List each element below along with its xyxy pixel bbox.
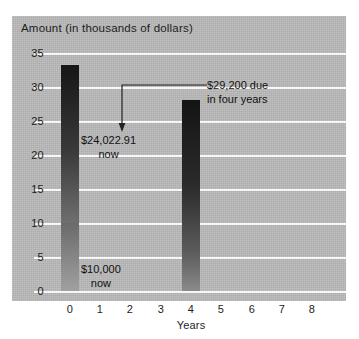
x-axis-ticks: 0 1 2 3 4 5 6 7 8 <box>12 303 346 319</box>
ytick-label-20: 20 <box>18 149 44 161</box>
annotation-29200: $29,200 due in four years <box>207 79 268 106</box>
bar-chart: Amount (in thousands of dollars) 35 30 2… <box>0 0 359 339</box>
annotation-24022-line2: now <box>81 148 136 162</box>
chart-axis-title: Amount (in thousands of dollars) <box>21 22 193 34</box>
ytick-label-15: 15 <box>18 183 44 195</box>
annotation-24022: $24,022.91 now <box>81 134 136 161</box>
annotation-29200-line1: $29,200 due <box>207 79 268 91</box>
ytick-label-0: 0 <box>18 285 44 297</box>
annotation-29200-line2: in four years <box>207 93 268 107</box>
xtick-label-8: 8 <box>309 303 315 315</box>
xtick-label-3: 3 <box>158 303 164 315</box>
ytick-label-35: 35 <box>18 47 44 59</box>
annotation-24022-line1: $24,022.91 <box>81 134 136 146</box>
x-axis-title: Years <box>177 319 206 331</box>
ytick-label-5: 5 <box>18 251 44 263</box>
annotation-10000-line1: $10,000 <box>81 263 121 275</box>
xtick-label-4: 4 <box>188 303 194 315</box>
xtick-label-7: 7 <box>279 303 285 315</box>
annotation-10000-line2: now <box>81 277 121 291</box>
xtick-label-1: 1 <box>97 303 103 315</box>
y-axis-ticks: 35 30 25 20 15 10 5 0 <box>12 16 346 301</box>
xtick-label-5: 5 <box>218 303 224 315</box>
xtick-label-2: 2 <box>127 303 133 315</box>
ytick-label-25: 25 <box>18 115 44 127</box>
annotation-10000: $10,000 now <box>81 263 121 290</box>
xtick-label-6: 6 <box>249 303 255 315</box>
ytick-label-30: 30 <box>18 81 44 93</box>
xtick-label-0: 0 <box>67 303 73 315</box>
ytick-label-10: 10 <box>18 217 44 229</box>
